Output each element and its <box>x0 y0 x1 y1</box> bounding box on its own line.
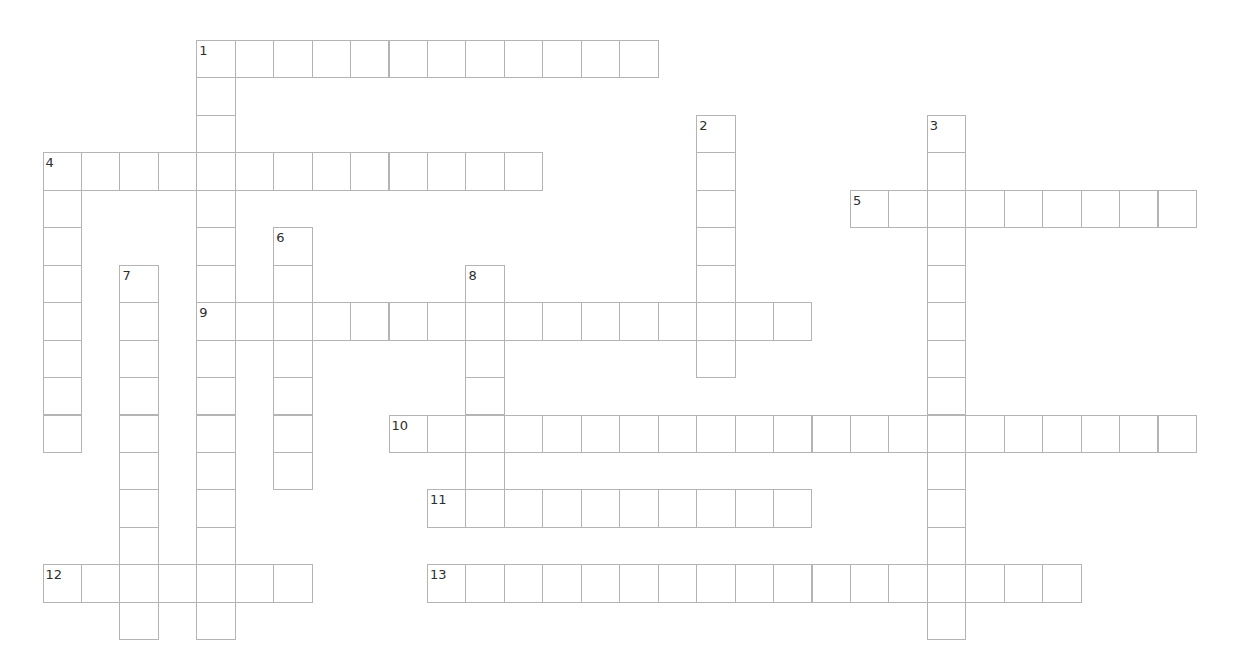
letter-input[interactable] <box>159 565 196 601</box>
crossword-cell[interactable] <box>465 40 504 78</box>
crossword-cell[interactable] <box>196 115 235 153</box>
letter-input[interactable] <box>582 303 619 339</box>
crossword-cell[interactable] <box>465 152 504 190</box>
letter-input[interactable] <box>505 490 542 526</box>
crossword-cell[interactable] <box>427 302 466 340</box>
crossword-cell[interactable] <box>119 340 158 378</box>
letter-input[interactable] <box>120 490 157 526</box>
letter-input[interactable] <box>197 603 234 639</box>
crossword-cell[interactable] <box>658 489 697 527</box>
crossword-cell[interactable] <box>504 489 543 527</box>
letter-input[interactable] <box>543 303 580 339</box>
letter-input[interactable] <box>466 565 503 601</box>
crossword-cell[interactable] <box>119 302 158 340</box>
letter-input[interactable] <box>543 416 580 452</box>
crossword-cell[interactable] <box>273 564 312 602</box>
crossword-cell[interactable] <box>196 564 235 602</box>
crossword-cell[interactable]: 7 <box>119 265 158 303</box>
letter-input[interactable] <box>351 303 388 339</box>
crossword-cell[interactable] <box>504 152 543 190</box>
letter-input[interactable] <box>697 191 734 227</box>
letter-input[interactable] <box>120 378 157 414</box>
letter-input[interactable] <box>697 228 734 264</box>
crossword-cell[interactable] <box>1158 415 1197 453</box>
crossword-cell[interactable] <box>504 564 543 602</box>
crossword-cell[interactable] <box>1042 564 1081 602</box>
letter-input[interactable] <box>543 41 580 77</box>
crossword-cell[interactable] <box>696 564 735 602</box>
letter-input[interactable] <box>274 228 311 264</box>
crossword-cell[interactable] <box>273 377 312 415</box>
crossword-cell[interactable] <box>812 415 851 453</box>
crossword-cell[interactable] <box>158 564 197 602</box>
crossword-cell[interactable] <box>43 415 82 453</box>
letter-input[interactable] <box>274 416 311 452</box>
letter-input[interactable] <box>620 41 657 77</box>
crossword-cell[interactable] <box>273 415 312 453</box>
letter-input[interactable] <box>236 153 273 189</box>
letter-input[interactable] <box>466 416 503 452</box>
letter-input[interactable] <box>697 153 734 189</box>
letter-input[interactable] <box>659 416 696 452</box>
letter-input[interactable] <box>582 41 619 77</box>
letter-input[interactable] <box>813 565 850 601</box>
crossword-cell[interactable] <box>927 190 966 228</box>
crossword-cell[interactable] <box>696 415 735 453</box>
letter-input[interactable] <box>697 565 734 601</box>
letter-input[interactable] <box>774 490 811 526</box>
letter-input[interactable] <box>44 228 81 264</box>
letter-input[interactable] <box>659 490 696 526</box>
letter-input[interactable] <box>966 565 1003 601</box>
crossword-cell[interactable] <box>427 415 466 453</box>
letter-input[interactable] <box>197 453 234 489</box>
crossword-cell[interactable] <box>119 602 158 640</box>
crossword-cell[interactable] <box>965 415 1004 453</box>
crossword-cell[interactable] <box>927 602 966 640</box>
letter-input[interactable] <box>274 565 311 601</box>
crossword-cell[interactable]: 8 <box>465 265 504 303</box>
crossword-cell[interactable] <box>619 489 658 527</box>
crossword-cell[interactable] <box>735 564 774 602</box>
crossword-cell[interactable] <box>1042 415 1081 453</box>
crossword-cell[interactable] <box>850 415 889 453</box>
crossword-cell[interactable] <box>119 415 158 453</box>
letter-input[interactable] <box>428 153 465 189</box>
crossword-cell[interactable] <box>927 527 966 565</box>
crossword-cell[interactable] <box>542 415 581 453</box>
crossword-cell[interactable] <box>735 489 774 527</box>
crossword-cell[interactable] <box>696 227 735 265</box>
crossword-cell[interactable] <box>43 227 82 265</box>
letter-input[interactable] <box>428 490 465 526</box>
letter-input[interactable] <box>1159 416 1196 452</box>
crossword-cell[interactable] <box>273 40 312 78</box>
crossword-cell[interactable] <box>581 564 620 602</box>
letter-input[interactable] <box>44 303 81 339</box>
crossword-cell[interactable] <box>965 564 1004 602</box>
letter-input[interactable] <box>197 341 234 377</box>
letter-input[interactable] <box>428 41 465 77</box>
crossword-cell[interactable] <box>43 190 82 228</box>
crossword-cell[interactable] <box>196 265 235 303</box>
letter-input[interactable] <box>1082 416 1119 452</box>
letter-input[interactable] <box>197 78 234 114</box>
crossword-cell[interactable] <box>273 452 312 490</box>
crossword-cell[interactable] <box>389 302 428 340</box>
crossword-cell[interactable]: 11 <box>427 489 466 527</box>
crossword-cell[interactable] <box>927 489 966 527</box>
crossword-cell[interactable] <box>235 564 274 602</box>
crossword-cell[interactable] <box>196 227 235 265</box>
letter-input[interactable] <box>466 153 503 189</box>
letter-input[interactable] <box>582 416 619 452</box>
crossword-cell[interactable] <box>1081 190 1120 228</box>
letter-input[interactable] <box>505 41 542 77</box>
letter-input[interactable] <box>44 191 81 227</box>
crossword-cell[interactable] <box>1119 415 1158 453</box>
crossword-cell[interactable]: 5 <box>850 190 889 228</box>
letter-input[interactable] <box>851 416 888 452</box>
letter-input[interactable] <box>197 416 234 452</box>
letter-input[interactable] <box>928 416 965 452</box>
letter-input[interactable] <box>428 416 465 452</box>
letter-input[interactable] <box>736 416 773 452</box>
letter-input[interactable] <box>466 490 503 526</box>
letter-input[interactable] <box>428 565 465 601</box>
